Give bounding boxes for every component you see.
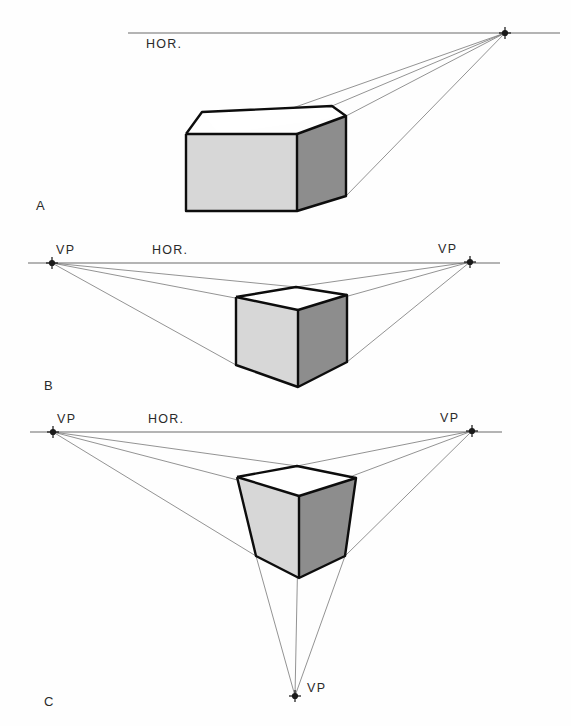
vp-bottom-label-c: VP: [307, 681, 326, 695]
vp-dot: [502, 30, 508, 36]
vp-dot: [469, 428, 475, 434]
horizon-label-a: HOR.: [146, 37, 182, 51]
box-a: [186, 106, 346, 211]
box-c: [237, 466, 356, 578]
horizon-label-c: HOR.: [148, 412, 184, 426]
perspective-diagram-canvas: HOR.AHOR.VPVPBHOR.VPVPVPC: [0, 0, 571, 726]
box-left-face-b: [236, 297, 298, 387]
perspective-figure: HOR.AHOR.VPVPBHOR.VPVPVPC: [0, 0, 571, 726]
panel-b: [28, 256, 500, 387]
ray-c-0: [53, 432, 297, 466]
vp-dot: [292, 693, 298, 699]
panel-label-b: B: [44, 378, 53, 393]
vp-dot: [50, 429, 56, 435]
ray-c-3: [297, 431, 472, 466]
vp-dot: [467, 259, 473, 265]
ray-a-1: [332, 33, 505, 106]
box-b: [236, 287, 347, 387]
vp-right-b: [464, 256, 476, 268]
ray-a-2: [346, 33, 505, 116]
vp-right-label-b: VP: [438, 242, 457, 256]
box-left-face-a: [186, 134, 297, 211]
ray-c-5: [345, 431, 472, 556]
ray-c-2: [53, 432, 256, 556]
vp-right-label-c: VP: [440, 411, 459, 425]
vp-left-b: [46, 257, 58, 269]
panel-label-a: A: [36, 198, 45, 213]
ray-c-6: [256, 556, 295, 696]
panel-c: [30, 425, 502, 702]
ray-a-3: [346, 33, 505, 196]
horizon-label-b: HOR.: [152, 243, 188, 257]
vp-dot: [49, 260, 55, 266]
vp-left-label-c: VP: [57, 412, 76, 426]
vp-left-label-b: VP: [56, 243, 75, 257]
vp-left-c: [47, 426, 59, 438]
panel-label-c: C: [44, 694, 54, 709]
labels-a: HOR.A: [36, 37, 182, 213]
panels-layer: [28, 27, 560, 702]
vp-bottom-c: [289, 690, 301, 702]
convergence-rays-c: [53, 431, 472, 696]
labels-c: HOR.VPVPVPC: [44, 411, 459, 709]
panel-a: [128, 27, 560, 211]
